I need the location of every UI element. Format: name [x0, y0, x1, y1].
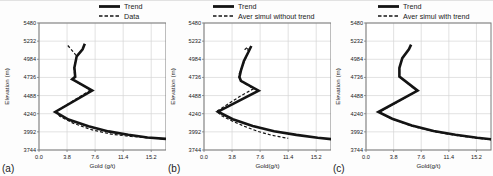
- legend-label: Data: [124, 12, 139, 21]
- x-axis-label: Gold (g/t): [90, 162, 116, 169]
- x-tick-label: 3.8: [63, 154, 71, 160]
- x-tick-label: 7.6: [417, 154, 425, 160]
- x-tick-label: 3.8: [228, 154, 236, 160]
- chart-b: 0.03.87.611.415.237443992424044884736498…: [166, 1, 331, 176]
- y-tick-label: 4736: [189, 74, 201, 80]
- legend-label: Aver simul without trend: [238, 12, 315, 21]
- x-tick-label: 0.0: [362, 154, 370, 160]
- panel-c: 0.03.87.611.415.237443992424044884736498…: [331, 1, 493, 176]
- y-tick-label: 4984: [351, 56, 363, 62]
- y-tick-label: 4240: [351, 111, 363, 117]
- legend-label: Aver simul with trend: [403, 12, 470, 21]
- y-tick-label: 5480: [24, 20, 36, 26]
- x-tick-label: 15.2: [311, 154, 322, 160]
- y-tick-label: 5232: [24, 38, 36, 44]
- x-axis-label: Gold(g/t): [416, 162, 440, 169]
- y-tick-label: 3992: [24, 129, 36, 135]
- y-tick-label: 4488: [24, 93, 36, 99]
- chart-c: 0.03.87.611.415.237443992424044884736498…: [331, 1, 493, 176]
- y-tick-label: 4488: [189, 93, 201, 99]
- y-tick-label: 5232: [351, 38, 363, 44]
- y-axis-label: Elevation (m): [169, 68, 176, 104]
- legend-label: Trend: [403, 2, 422, 11]
- y-tick-label: 5232: [189, 38, 201, 44]
- y-tick-label: 4240: [24, 111, 36, 117]
- legend-label: Trend: [238, 2, 257, 11]
- x-tick-label: 0.0: [200, 154, 208, 160]
- x-tick-label: 11.4: [118, 154, 128, 160]
- x-tick-label: 15.2: [146, 154, 157, 160]
- y-tick-label: 3992: [351, 129, 363, 135]
- y-axis-label: Elevation (m): [3, 68, 10, 104]
- x-tick-label: 15.2: [471, 154, 482, 160]
- y-tick-label: 3744: [189, 147, 201, 153]
- y-tick-label: 3744: [24, 147, 36, 153]
- x-tick-label: 11.4: [283, 154, 293, 160]
- x-tick-label: 7.6: [91, 154, 99, 160]
- y-tick-label: 4240: [189, 111, 201, 117]
- x-tick-label: 7.6: [256, 154, 264, 160]
- panel-letter: (c): [333, 163, 345, 174]
- y-tick-label: 5480: [189, 20, 201, 26]
- x-axis-label: Gold(g/t): [255, 162, 279, 169]
- panel-letter: (a): [2, 163, 14, 174]
- y-tick-label: 4736: [351, 74, 363, 80]
- x-tick-label: 11.4: [444, 154, 454, 160]
- panel-b: 0.03.87.611.415.237443992424044884736498…: [166, 1, 331, 176]
- chart-a: 0.03.87.611.415.237443992424044884736498…: [0, 1, 166, 176]
- y-tick-label: 3992: [189, 129, 201, 135]
- y-tick-label: 4736: [24, 74, 36, 80]
- y-tick-label: 4488: [351, 93, 363, 99]
- legend-label: Trend: [124, 2, 143, 11]
- y-tick-label: 4984: [24, 56, 36, 62]
- x-tick-label: 3.8: [390, 154, 398, 160]
- y-tick-label: 4984: [189, 56, 201, 62]
- x-tick-label: 0.0: [35, 154, 43, 160]
- three-panel-elevation-gold-figure: 0.03.87.611.415.237443992424044884736498…: [0, 0, 493, 176]
- y-axis-label: Elevation (m): [334, 68, 341, 104]
- y-tick-label: 3744: [351, 147, 363, 153]
- panel-letter: (b): [168, 163, 180, 174]
- y-tick-label: 5480: [351, 20, 363, 26]
- panel-a: 0.03.87.611.415.237443992424044884736498…: [0, 1, 166, 176]
